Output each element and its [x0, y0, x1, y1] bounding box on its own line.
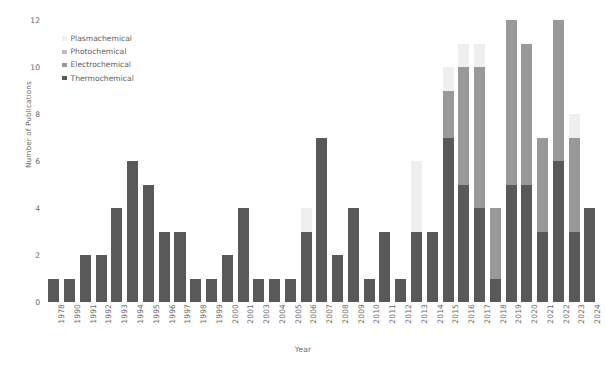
y-axis-tick-label: 6 [35, 157, 40, 166]
x-axis-tick: 2024 [582, 304, 598, 344]
bar-column [46, 20, 62, 302]
bar-segment-thermochemical [190, 279, 201, 303]
bar-segment-thermochemical [569, 232, 580, 303]
x-axis-tick: 2021 [535, 304, 551, 344]
bar-column [503, 20, 519, 302]
bar-segment-thermochemical [537, 232, 548, 303]
legend-item: Thermochemical [62, 72, 134, 85]
y-axis-tick-label: 12 [30, 16, 40, 25]
x-axis-title: Year [0, 345, 606, 354]
bar-segment-thermochemical [301, 232, 312, 303]
bar-segment-thermochemical [253, 279, 264, 303]
publications-stacked-bar-chart: Number of Publications 024681012 1978199… [0, 0, 606, 365]
bar-segment-thermochemical [584, 208, 595, 302]
x-axis-tick: 2016 [456, 304, 472, 344]
legend-label: Photochemical [71, 45, 127, 58]
bar-segment-thermochemical [48, 279, 59, 303]
bar-segment-thermochemical [238, 208, 249, 302]
bar-segment-thermochemical [127, 161, 138, 302]
bar-column [346, 20, 362, 302]
bar-segment-electrochemical [474, 67, 485, 208]
bar-column [440, 20, 456, 302]
x-axis-tick: 1992 [93, 304, 109, 344]
bar-segment-electrochemical [458, 67, 469, 185]
bar-segment-thermochemical [443, 138, 454, 303]
legend-label: Plasmachemical [71, 32, 132, 45]
bar-column [424, 20, 440, 302]
bar-column [141, 20, 157, 302]
bar-column [582, 20, 598, 302]
x-axis-tick: 1991 [78, 304, 94, 344]
bar-column [393, 20, 409, 302]
x-axis-tick: 1997 [172, 304, 188, 344]
bar-column [472, 20, 488, 302]
bar-column [519, 20, 535, 302]
legend-item: Plasmachemical [62, 32, 134, 45]
x-axis-tick: 2005 [282, 304, 298, 344]
bar-segment-thermochemical [411, 232, 422, 303]
bar-segment-plasmachemical [443, 67, 454, 91]
bar-segment-thermochemical [348, 208, 359, 302]
bar-segment-electrochemical [506, 20, 517, 185]
bar-segment-thermochemical [64, 279, 75, 303]
bar-segment-thermochemical [174, 232, 185, 303]
bar-segment-thermochemical [159, 232, 170, 303]
bar-column [361, 20, 377, 302]
x-axis-tick: 2012 [393, 304, 409, 344]
bar-segment-thermochemical [285, 279, 296, 303]
bar-column [235, 20, 251, 302]
bar-column [330, 20, 346, 302]
bar-segment-thermochemical [427, 232, 438, 303]
legend-label: Thermochemical [71, 72, 134, 85]
bar-column [188, 20, 204, 302]
bar-segment-thermochemical [506, 185, 517, 303]
x-axis-tick: 1999 [204, 304, 220, 344]
bar-segment-electrochemical [443, 91, 454, 138]
y-axis-tick-label: 8 [35, 110, 40, 119]
x-axis-tick: 2020 [519, 304, 535, 344]
legend-swatch-icon [62, 76, 67, 81]
x-axis-tick: 1990 [62, 304, 78, 344]
bar-segment-electrochemical [553, 20, 564, 161]
bar-segment-thermochemical [395, 279, 406, 303]
bar-column [219, 20, 235, 302]
y-axis-tick-label: 4 [35, 204, 40, 213]
bar-segment-thermochemical [364, 279, 375, 303]
bar-column [535, 20, 551, 302]
legend-swatch-icon [62, 50, 67, 55]
bar-column [566, 20, 582, 302]
bar-segment-plasmachemical [569, 114, 580, 138]
x-axis-tick: 2010 [361, 304, 377, 344]
y-axis-tick-label: 10 [30, 63, 40, 72]
bar-segment-thermochemical [458, 185, 469, 303]
x-axis-tick: 1998 [188, 304, 204, 344]
x-axis-tick: 2001 [235, 304, 251, 344]
bar-segment-plasmachemical [458, 44, 469, 68]
x-axis-tick: 1996 [156, 304, 172, 344]
bar-column [172, 20, 188, 302]
x-axis-tick: 2006 [298, 304, 314, 344]
bar-segment-thermochemical [332, 255, 343, 302]
x-axis-tick: 2013 [409, 304, 425, 344]
bar-segment-thermochemical [143, 185, 154, 303]
x-axis-tick: 2003 [251, 304, 267, 344]
bar-segment-thermochemical [316, 138, 327, 303]
bar-segment-thermochemical [379, 232, 390, 303]
x-axis-tick: 2004 [267, 304, 283, 344]
y-axis-tick-label: 0 [35, 298, 40, 307]
x-axis-tick: 2023 [566, 304, 582, 344]
bar-segment-plasmachemical [474, 44, 485, 68]
x-axis-tick: 2000 [219, 304, 235, 344]
bar-column [251, 20, 267, 302]
bar-segment-thermochemical [111, 208, 122, 302]
bar-segment-electrochemical [490, 208, 501, 279]
bar-segment-thermochemical [490, 279, 501, 303]
bar-segment-electrochemical [521, 44, 532, 185]
x-axis-tick: 1994 [125, 304, 141, 344]
x-axis-tick: 1978 [46, 304, 62, 344]
bar-segment-thermochemical [206, 279, 217, 303]
bar-segment-electrochemical [537, 138, 548, 232]
bar-segment-thermochemical [521, 185, 532, 303]
legend-item: Photochemical [62, 45, 134, 58]
bar-column [377, 20, 393, 302]
